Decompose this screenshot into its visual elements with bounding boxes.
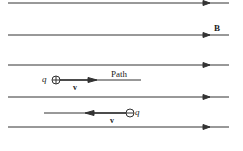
path-label: Path [111,70,127,79]
negative-velocity-label: v [110,117,114,125]
negative-path [44,111,126,116]
negative-charge-icon [126,109,134,117]
positive-charge-icon [52,76,60,84]
field-line-3 [8,63,229,68]
positive-charge-label: q [42,75,47,84]
field-label-b: B [214,24,220,33]
positive-path [60,78,141,83]
field-line-5 [8,125,229,130]
positive-velocity-label: v [73,84,77,92]
field-line-2 [8,33,229,38]
field-line-1 [8,1,229,6]
field-line-4 [8,95,229,100]
negative-charge-label: q [135,108,140,117]
